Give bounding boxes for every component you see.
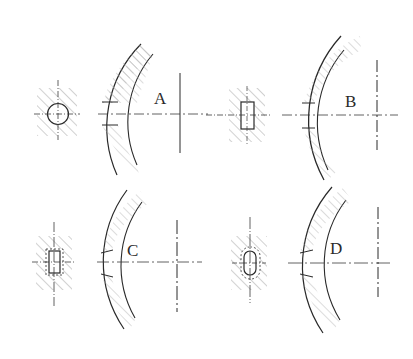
panel-a: A: [34, 44, 208, 175]
panel-d: D: [231, 187, 393, 333]
section-c-rectangle-dashed: [32, 222, 76, 306]
section-b-rectangle-hole: [206, 86, 270, 144]
panel-b: B: [206, 36, 398, 180]
label-a: A: [154, 89, 167, 108]
label-b: B: [345, 92, 356, 111]
section-a-circle-hole: [34, 80, 80, 140]
ring-hatch-d: [300, 188, 352, 330]
technical-diagram: A B: [0, 0, 413, 359]
label-d: D: [330, 239, 342, 258]
panel-c: C: [32, 190, 202, 329]
ring-hatch-c: [101, 191, 149, 327]
label-c: C: [127, 241, 138, 260]
section-d-rounded-slot-dashed: [231, 217, 267, 303]
ring-segment-a: [102, 44, 153, 175]
